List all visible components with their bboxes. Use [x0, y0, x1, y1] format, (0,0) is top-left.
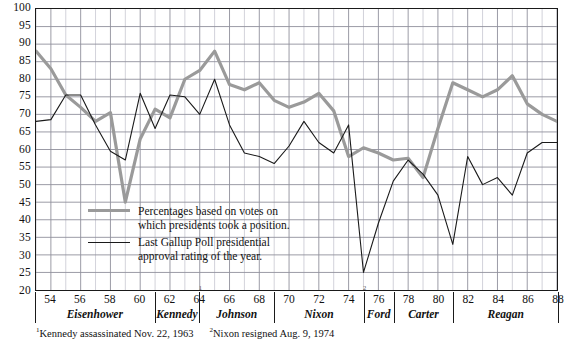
y-tick-label: 50 — [0, 179, 31, 191]
legend-label-gallup: Last Gallup Poll presidential approval r… — [138, 236, 318, 263]
x-tick-label: 62 — [157, 292, 181, 306]
president-separator — [394, 292, 395, 323]
y-tick-label: 100 — [0, 2, 31, 14]
y-tick-label: 30 — [0, 250, 31, 262]
president-separator — [155, 292, 156, 323]
x-tick-label: 60 — [128, 292, 152, 306]
x-tick-label: 72 — [307, 292, 331, 306]
y-tick-label: 70 — [0, 108, 31, 120]
chart-figure: 20253035404550556065707580859095100 Perc… — [0, 0, 576, 349]
y-tick-label: 45 — [0, 197, 31, 209]
y-tick-label: 35 — [0, 232, 31, 244]
x-tick-label: 58 — [98, 292, 122, 306]
y-tick-label: 75 — [0, 90, 31, 102]
x-tick-label: 82 — [456, 292, 480, 306]
y-tick-label: 80 — [0, 73, 31, 85]
legend-item-gallup: Last Gallup Poll presidential approval r… — [88, 236, 318, 264]
legend-item-votes: Percentages based on votes on which pres… — [88, 205, 318, 233]
x-tick-label: 86 — [516, 292, 540, 306]
legend-swatch-gallup-line — [88, 242, 130, 243]
x-tick-label: 66 — [217, 292, 241, 306]
x-tick-label: 76 — [367, 292, 391, 306]
x-tick-label: 54 — [38, 292, 62, 306]
legend-swatch-votes-line — [88, 209, 130, 212]
x-tick-label: 80 — [426, 292, 450, 306]
president-separator — [453, 292, 454, 323]
y-tick-label: 40 — [0, 214, 31, 226]
footnote-2: 2Nixon resigned Aug. 9, 1974 — [209, 324, 334, 340]
footnotes: 1Kennedy assassinated Nov. 22, 19632Nixo… — [36, 324, 334, 340]
y-tick-label: 60 — [0, 144, 31, 156]
legend-label-votes: Percentages based on votes on which pres… — [138, 205, 318, 232]
x-axis: 545658606264666870727476788082848688 — [0, 292, 576, 308]
y-tick-label: 55 — [0, 161, 31, 173]
legend-label-gallup-line1: Last Gallup Poll presidential — [138, 236, 318, 250]
y-tick-label: 85 — [0, 55, 31, 67]
footnote-1: 1Kennedy assassinated Nov. 22, 1963 — [36, 324, 193, 340]
legend-label-votes-line2: which presidents took a position. — [138, 219, 318, 233]
president-separator — [274, 292, 275, 323]
president-label-reagan: Reagan — [456, 307, 556, 322]
footnote-1-text: Kennedy assassinated Nov. 22, 1963 — [40, 328, 194, 339]
president-separator — [199, 292, 200, 323]
x-tick-label: 84 — [486, 292, 510, 306]
president-band: EisenhowerKennedyJohnsonNixonFordCarterR… — [0, 307, 576, 324]
x-tick-label: 68 — [247, 292, 271, 306]
president-band-edge — [558, 292, 559, 323]
footnote-2-text: Nixon resigned Aug. 9, 1974 — [213, 328, 334, 339]
plot-area: Percentages based on votes on which pres… — [35, 8, 558, 291]
legend-label-gallup-line2: approval rating of the year. — [138, 250, 318, 264]
president-band-edge — [35, 292, 36, 323]
y-tick-label: 95 — [0, 20, 31, 32]
footnote-marker-2: 2 — [360, 284, 370, 291]
footnote-marker-1: 1 — [195, 284, 205, 291]
legend: Percentages based on votes on which pres… — [88, 205, 318, 267]
x-tick-label: 74 — [337, 292, 361, 306]
x-tick-label: 70 — [277, 292, 301, 306]
legend-label-votes-line1: Percentages based on votes on — [138, 205, 318, 219]
y-tick-label: 25 — [0, 267, 31, 279]
y-tick-label: 90 — [0, 37, 31, 49]
x-tick-label: 56 — [68, 292, 92, 306]
president-separator — [364, 292, 365, 323]
y-tick-label: 65 — [0, 126, 31, 138]
x-tick-label: 78 — [397, 292, 421, 306]
